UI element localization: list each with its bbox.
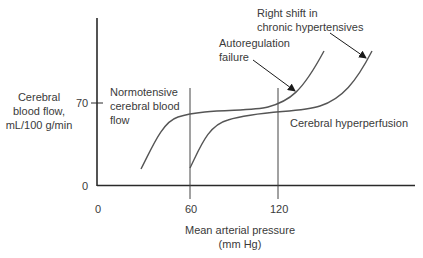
x-axis-label: Mean arterial pressure (mm Hg) <box>170 223 310 251</box>
right-shift-annotation-line2: chronic hypertensives <box>257 20 363 34</box>
x-axis-label-line1: Mean arterial pressure <box>170 223 310 237</box>
autoregulation-annotation: Autoregulation failure <box>219 36 290 64</box>
y-axis-label-line3: mL/100 g/min <box>4 118 74 132</box>
x-tick-label-120: 120 <box>270 202 288 216</box>
y-axis-label: Cerebral blood flow, mL/100 g/min <box>4 90 74 132</box>
x-tick-label-0: 0 <box>95 202 101 216</box>
normotensive-annotation-line2: cerebral blood <box>110 99 180 113</box>
hypertensive-curve <box>190 51 372 168</box>
normotensive-annotation-line1: Normotensive <box>110 85 180 99</box>
y-tick-label-0: 0 <box>82 179 88 193</box>
autoregulation-annotation-line1: Autoregulation <box>219 36 290 50</box>
right-shift-arrow <box>330 33 366 58</box>
normotensive-annotation-line3: flow <box>110 113 180 127</box>
y-axis-label-line2: blood flow, <box>4 104 74 118</box>
y-axis-label-line1: Cerebral <box>4 90 74 104</box>
x-tick-label-60: 60 <box>185 202 197 216</box>
normotensive-annotation: Normotensive cerebral blood flow <box>110 85 180 127</box>
y-tick-label-70: 70 <box>76 96 88 110</box>
autoregulation-arrow <box>253 60 295 91</box>
right-shift-annotation-line1: Right shift in <box>257 6 363 20</box>
x-axis-label-line2: (mm Hg) <box>170 237 310 251</box>
autoregulation-annotation-line2: failure <box>219 50 290 64</box>
hyperperfusion-annotation: Cerebral hyperperfusion <box>290 116 408 130</box>
right-shift-annotation: Right shift in chronic hypertensives <box>257 6 363 34</box>
